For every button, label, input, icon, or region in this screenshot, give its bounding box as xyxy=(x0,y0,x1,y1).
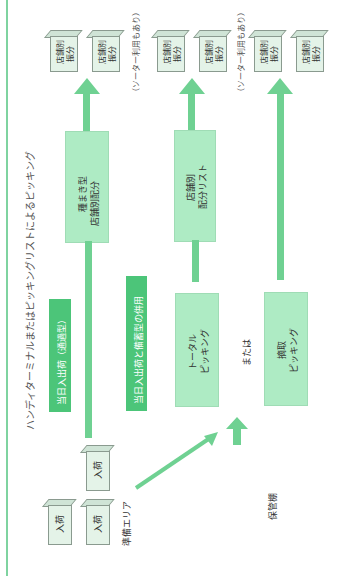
flow-shaft xyxy=(277,94,284,280)
store-sort-cube-2: 店舗別 振分 xyxy=(86,30,120,72)
storage-shelf-label: 保管棚 xyxy=(266,493,279,520)
inbound-cube-1: 入荷 xyxy=(80,445,112,491)
flow-shaft xyxy=(192,240,199,282)
store-sort-cube-4: 店舗別 振分 xyxy=(193,30,227,72)
inbound-cube-3: 入荷 xyxy=(80,499,112,545)
arrow-up-icon xyxy=(265,76,295,96)
arrow-up-icon xyxy=(177,76,207,96)
total-picking-box: トータル ピッキング xyxy=(175,293,219,407)
combined-type-label-box: 当日入出荷と備蓄型の併用 xyxy=(126,276,147,411)
staging-area-label: 準備エリア xyxy=(120,501,133,546)
diagonal-arrow-icon xyxy=(130,428,222,492)
frame-line xyxy=(6,0,8,576)
store-sort-cube-5: 店舗別 振分 xyxy=(248,30,282,72)
inbound-cube-2: 入荷 xyxy=(42,499,74,545)
arrow-up-icon xyxy=(72,76,102,96)
flow-shaft xyxy=(83,94,90,134)
arrow-up-icon xyxy=(225,415,249,447)
or-label: または xyxy=(240,339,253,366)
pick-picking-box: 摘取 ピッキング xyxy=(264,292,308,406)
flow-shaft xyxy=(188,94,195,134)
sorter-note-1: （ソーター利用もあり） xyxy=(130,8,141,96)
store-sort-cube-6: 店舗別 振分 xyxy=(290,30,324,72)
through-type-label-box: 当日入出荷（通過型） xyxy=(49,299,71,412)
sorter-note-2: （ソーター利用もあり） xyxy=(235,8,246,96)
flow-shaft xyxy=(85,241,92,438)
seed-distribution-box: 種まき型 店舗別配分 xyxy=(65,131,109,243)
diagram-title: ハンディターミナルまたはピッキングリストによるピッキング xyxy=(22,151,37,430)
store-distribution-list-box: 店舗別 配分リスト xyxy=(174,130,216,242)
store-sort-cube-3: 店舗別 振分 xyxy=(151,30,185,72)
store-sort-cube-1: 店舗別 振分 xyxy=(44,30,78,72)
